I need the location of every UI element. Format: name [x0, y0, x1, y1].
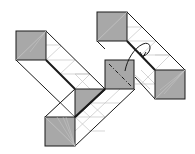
origami-diagram [0, 0, 195, 154]
square-bottom [45, 117, 75, 146]
diagram-canvas [0, 0, 195, 154]
square-right [155, 70, 185, 99]
square-middle [105, 60, 134, 89]
square-top-left [16, 31, 46, 60]
square-top-right [97, 12, 127, 41]
